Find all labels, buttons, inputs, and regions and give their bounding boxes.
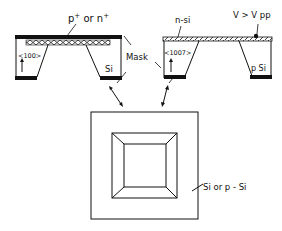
right-bottom-mask-right (250, 75, 272, 79)
plan-view-label: Si or p - Si (203, 182, 246, 192)
mask-label: Mask (126, 52, 148, 62)
left-doped-layer (26, 40, 110, 45)
left-top-mask-layer (15, 35, 122, 39)
arrow-left-to-plan-icon (109, 86, 123, 107)
left-bottom-mask-left (15, 76, 37, 80)
left-material-label: Si (105, 64, 113, 74)
plan-outer-square (91, 112, 198, 219)
right-etch-wall-left (185, 41, 199, 76)
voltage-contact-dot-icon (254, 34, 258, 38)
voltage-label: V > V pp (233, 10, 271, 20)
etch-stop-diagram: p+ or n+ <100> Si Mask n-si V > V pp <10… (0, 0, 282, 231)
plan-pit-bottom (124, 144, 166, 187)
right-bottom-mask-left (164, 75, 186, 79)
left-etch-wall-right (86, 45, 100, 77)
left-bottom-mask-right (100, 76, 122, 80)
left-orientation-label: <100> (18, 52, 41, 60)
left-top-label: p+ or n+ (68, 12, 109, 24)
arrow-right-to-plan-icon (161, 85, 169, 107)
right-material-label: p Si (251, 64, 266, 73)
mask-pointer-left (124, 36, 131, 45)
mask-pointer-right (155, 62, 161, 68)
plan-view (91, 112, 203, 219)
right-orientation-label: <1007> (164, 49, 191, 57)
left-etch-wall-left (37, 45, 48, 77)
right-top-label: n-si (175, 15, 190, 25)
